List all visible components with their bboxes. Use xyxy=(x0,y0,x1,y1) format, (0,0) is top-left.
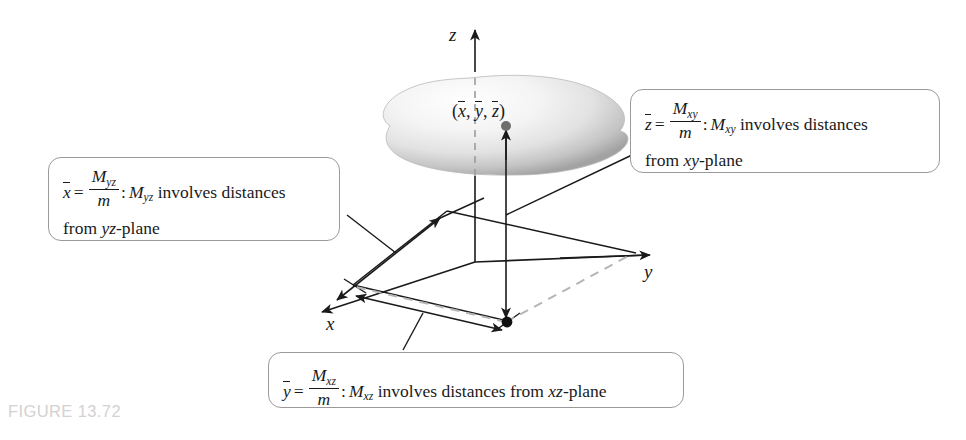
zbar-numerator: Mxy xyxy=(670,99,701,122)
zbar-fraction: Mxym xyxy=(670,99,701,142)
ybar-moment-symbol: M xyxy=(349,381,364,401)
z-bar-symbol: z xyxy=(492,100,499,122)
zbar-colon: : xyxy=(703,114,711,134)
ybar-plane-name: xz xyxy=(548,381,563,401)
xbar-line2-post: -plane xyxy=(116,218,160,238)
callout-zbar: z=Mxym:Mxy involves distances from xy-pl… xyxy=(630,89,940,173)
zbar-phrase: involves distances xyxy=(736,114,868,134)
callout-leader-lines xyxy=(347,155,632,350)
zbar-moment-symbol: M xyxy=(711,114,726,134)
zbar-moment-subscript: xy xyxy=(725,123,735,135)
zbar-denominator: m xyxy=(670,122,701,142)
xbar-fraction: Myzm xyxy=(89,167,119,210)
y-axis-label: y xyxy=(644,261,652,283)
xbar-plane-name: yz xyxy=(101,218,116,238)
zbar-plane-name: xy xyxy=(683,150,699,170)
xbar-denominator: m xyxy=(89,190,119,210)
ybar-numerator: Mxz xyxy=(309,366,339,389)
zbar-numerator-subscript: xy xyxy=(687,108,697,120)
callout-xbar-line-2: from yz-plane xyxy=(63,219,326,237)
xbar-numerator-subscript: yz xyxy=(106,176,116,188)
y-bar-symbol: y xyxy=(475,100,483,122)
callout-zbar-line-2: from xy-plane xyxy=(645,151,926,169)
zbar-equals: = xyxy=(652,114,668,134)
xbar-line2-pre: from xyxy=(63,218,101,238)
xbar-moment-symbol: M xyxy=(129,182,144,202)
ybar-numerator-symbol: M xyxy=(312,365,327,385)
xbar-phrase: involves distances xyxy=(153,182,285,202)
z-axis-label: z xyxy=(449,24,456,46)
ybar-post: -plane xyxy=(563,381,607,401)
callout-zbar-line-1: z=Mxym:Mxy involves distances xyxy=(645,99,926,142)
zbar-line2-post: -plane xyxy=(699,150,743,170)
zbar-var: z xyxy=(645,114,652,133)
projected-point-marker xyxy=(502,317,513,328)
figure-caption: FIGURE 13.72 xyxy=(8,402,121,421)
zbar-line2-pre: from xyxy=(645,150,683,170)
comma-2: , xyxy=(483,101,492,121)
callout-xbar: x=Myzm:Myz involves distances from yz-pl… xyxy=(48,157,340,241)
xbar-moment-subscript: yz xyxy=(144,191,154,203)
xbar-equals: = xyxy=(71,182,87,202)
figure-13-72: z y x (x, y, z) x=Myzm:Myz involves dist… xyxy=(0,0,966,440)
xbar-measure-arrow xyxy=(337,218,440,300)
ybar-var: y xyxy=(283,381,291,400)
ybar-fraction: Mxzm xyxy=(309,366,339,409)
projection-parallelogram xyxy=(344,198,636,330)
xbar-numerator-symbol: M xyxy=(92,166,107,186)
x-axis xyxy=(322,262,475,312)
zbar-numerator-symbol: M xyxy=(673,98,688,118)
ybar-numerator-subscript: xz xyxy=(326,375,336,387)
ybar-colon: : xyxy=(341,381,349,401)
comma-1: , xyxy=(466,101,475,121)
xbar-colon: : xyxy=(121,182,129,202)
centroid-coordinates-label: (x, y, z) xyxy=(452,100,505,122)
ybar-phrase: involves distances from xyxy=(373,381,548,401)
ybar-moment-subscript: xz xyxy=(364,390,374,402)
x-bar-symbol: x xyxy=(458,100,466,122)
callout-ybar: y=Mxzm:Mxz involves distances from xz-pl… xyxy=(268,352,684,408)
xbar-var: x xyxy=(63,182,71,201)
ybar-measure-arrow xyxy=(356,296,502,330)
callout-xbar-line-1: x=Myzm:Myz involves distances xyxy=(63,167,326,210)
paren-close: ) xyxy=(499,101,505,121)
x-axis-label: x xyxy=(326,313,334,335)
ybar-denominator: m xyxy=(309,389,339,409)
callout-ybar-line-1: y=Mxzm:Mxz involves distances from xz-pl… xyxy=(283,366,670,409)
xbar-numerator: Myz xyxy=(89,167,119,190)
ybar-equals: = xyxy=(291,381,307,401)
